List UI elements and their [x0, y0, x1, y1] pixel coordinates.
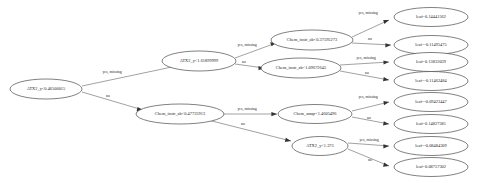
node-leaf-6-label: leaf=0.14827381 [416, 121, 446, 126]
node-group: ATX2_y<0.46500015 ATX2_y<1.61899999 Chem… [10, 8, 468, 177]
arrowhead-b1-to-leaf5 [383, 101, 389, 105]
decision-tree-diagram: yes, missing no yes, missing no yes, mis… [0, 0, 485, 183]
arrowhead-b2-to-leaf8 [383, 163, 389, 167]
arrowhead-t1-to-leaf1 [383, 20, 389, 24]
edge-root-to-bottom [82, 92, 143, 110]
node-leaf-1-label: leaf=0.14441562 [416, 14, 446, 19]
node-leaf-3[interactable]: leaf=0.13832039 [394, 53, 468, 72]
node-leaf-5[interactable]: leaf=-0.09423447 [394, 93, 468, 112]
node-b2-split[interactable]: ATX2_y<1.373 [292, 137, 348, 156]
edge-label-top-yes: yes, missing [237, 43, 256, 48]
arrowhead-t2-to-leaf4 [383, 77, 389, 81]
node-leaf-4[interactable]: leaf=-0.11462484 [394, 72, 468, 91]
edge-label-bottom-yes: yes, missing [237, 107, 256, 112]
node-leaf-8-label: leaf=0.08757302 [416, 164, 446, 169]
edge-t2-to-leaf3 [340, 62, 389, 65]
edge-label-b2-no: no [368, 158, 372, 162]
edge-t1-to-leaf1 [352, 20, 389, 37]
tree-graph-canvas: yes, missing no yes, missing no yes, mis… [0, 0, 485, 183]
arrowhead-t1-to-leaf2 [385, 43, 391, 47]
arrowhead-t2-to-leaf3 [383, 60, 389, 64]
edge-label-root-yes: yes, missing [102, 70, 121, 75]
node-bottom-split-label: Chem_instr_ab<0.47725913 [155, 111, 205, 116]
node-leaf-7-label: leaf=-0.08484309 [415, 143, 447, 148]
edge-label-b2-yes: yes, missing [359, 138, 378, 143]
arrowhead-bottom-to-b1 [271, 112, 277, 116]
node-top-split[interactable]: ATX2_y<1.61899999 [162, 51, 236, 71]
node-t1-split[interactable]: Chem_instr_ab<0.37595273 [271, 30, 353, 50]
arrowhead-b2-to-leaf7 [383, 144, 389, 148]
edge-label-t1-no: no [368, 37, 372, 41]
node-t2-split[interactable]: Chem_instr_ab<1.09672645 [261, 58, 341, 78]
edge-label-root-no: no [106, 94, 110, 98]
node-leaf-7[interactable]: leaf=-0.08484309 [394, 137, 468, 156]
node-t1-split-label: Chem_instr_ab<0.37595273 [287, 37, 337, 42]
node-root-label: ATX2_y<0.46500015 [27, 86, 65, 91]
arrowhead-bottom-to-b2 [285, 138, 291, 142]
edge-label-top-no: no [242, 60, 246, 64]
node-leaf-3-label: leaf=0.13832039 [416, 59, 446, 64]
node-leaf-2-label: leaf=-0.11495475 [415, 42, 446, 47]
edge-b2-to-leaf7 [348, 143, 389, 146]
node-t2-split-label: Chem_instr_ab<1.09672645 [276, 65, 326, 70]
node-root[interactable]: ATX2_y<0.46500015 [10, 79, 82, 99]
node-leaf-8[interactable]: leaf=0.08757302 [394, 158, 468, 177]
node-leaf-5-label: leaf=-0.09423447 [415, 99, 447, 104]
edge-label-t1-yes: yes, missing [358, 11, 377, 16]
node-b2-split-label: ATX2_y<1.373 [306, 143, 334, 148]
edge-b1-to-leaf5 [352, 102, 389, 111]
edge-label-b1-no: no [367, 116, 371, 120]
node-leaf-1[interactable]: leaf=0.14441562 [394, 8, 468, 27]
edge-label-t2-yes: yes, missing [356, 56, 375, 61]
edge-label-b1-yes: yes, missing [358, 95, 377, 100]
node-leaf-4-label: leaf=-0.11462484 [415, 78, 447, 83]
node-b1-split[interactable]: Chem_amqr<1.4605496 [278, 105, 352, 124]
edge-t1-to-leaf2 [352, 43, 391, 45]
node-bottom-split[interactable]: Chem_instr_ab<0.47725913 [136, 104, 224, 124]
edge-label-t2-no: no [365, 71, 369, 75]
edge-label-bottom-no: no [241, 122, 245, 126]
edge-bottom-to-b2 [208, 120, 291, 141]
node-b1-split-label: Chem_amqr<1.4605496 [294, 111, 338, 116]
node-leaf-2[interactable]: leaf=-0.11495475 [394, 36, 468, 55]
arrowhead-b1-to-leaf6 [383, 121, 389, 125]
node-top-split-label: ATX2_y<1.61899999 [180, 58, 218, 63]
node-leaf-6[interactable]: leaf=0.14827381 [394, 115, 468, 134]
